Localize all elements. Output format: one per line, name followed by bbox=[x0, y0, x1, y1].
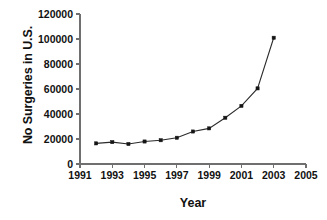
data-point-marker bbox=[256, 87, 259, 90]
data-point-marker bbox=[240, 104, 243, 107]
data-point-marker bbox=[143, 140, 146, 143]
y-tick-label: 120000 bbox=[38, 8, 73, 20]
series-markers bbox=[95, 36, 276, 145]
y-tick-label: 80000 bbox=[44, 58, 73, 70]
y-tick-label: 0 bbox=[67, 158, 73, 170]
x-tick-label: 1999 bbox=[197, 169, 221, 181]
data-point-marker bbox=[208, 127, 211, 130]
y-tick-label: 20000 bbox=[44, 133, 73, 145]
x-tick-label: 1993 bbox=[101, 169, 125, 181]
y-axis-ticks: 020000400006000080000100000120000 bbox=[38, 8, 80, 170]
data-point-marker bbox=[95, 142, 98, 145]
data-point-marker bbox=[191, 130, 194, 133]
y-tick-label: 40000 bbox=[44, 108, 73, 120]
data-point-marker bbox=[175, 136, 178, 139]
series-line bbox=[96, 38, 274, 144]
data-point-marker bbox=[159, 139, 162, 142]
data-point-marker bbox=[272, 36, 275, 39]
x-tick-label: 2003 bbox=[262, 169, 286, 181]
data-point-marker bbox=[224, 116, 227, 119]
x-tick-label: 1995 bbox=[133, 169, 157, 181]
y-tick-label: 60000 bbox=[44, 83, 73, 95]
x-tick-label: 1997 bbox=[165, 169, 189, 181]
plot-area: 020000400006000080000100000120000 199119… bbox=[0, 0, 327, 220]
x-tick-label: 2005 bbox=[294, 169, 318, 181]
chart-figure: No Surgeries in U.S. Year 02000040000600… bbox=[0, 0, 327, 220]
y-tick-label: 100000 bbox=[38, 33, 73, 45]
data-point-marker bbox=[111, 141, 114, 144]
x-axis-ticks: 19911993199519971999200120032005 bbox=[68, 164, 318, 181]
x-tick-label: 1991 bbox=[68, 169, 92, 181]
x-tick-label: 2001 bbox=[230, 169, 254, 181]
data-point-marker bbox=[127, 142, 130, 145]
